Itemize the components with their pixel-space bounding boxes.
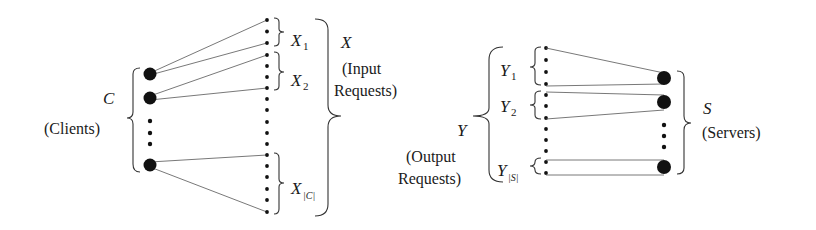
xc-brace (274, 153, 284, 214)
svg-text:|C|: |C| (303, 190, 315, 201)
ys-brace (530, 158, 541, 174)
svg-text:1: 1 (511, 70, 517, 82)
servers-symbol: S (703, 99, 712, 118)
svg-text:1: 1 (303, 40, 309, 52)
servers-brace (677, 71, 691, 174)
y2-brace (530, 91, 541, 119)
svg-text:X: X (290, 31, 302, 50)
x2-label: X 2 (290, 71, 309, 92)
x1-label: X 1 (290, 31, 309, 52)
y1-brace (530, 47, 541, 85)
input-requests-label-line1: (Input (342, 60, 382, 78)
server-node (657, 95, 671, 109)
right-panel-output-requests-to-servers: Y (Output Requests) Y 1 Y 2 Y |S| (398, 46, 761, 188)
request-server-edges (546, 48, 664, 175)
client-node (144, 92, 157, 105)
client-nodes (144, 68, 157, 172)
ys-label: Y |S| (497, 161, 519, 183)
output-requests-symbol: Y (457, 121, 468, 140)
output-requests-label-line1: (Output (406, 148, 456, 166)
ellipsis-dot (148, 119, 152, 123)
clients-brace (127, 68, 140, 172)
clients-symbol: C (103, 89, 115, 108)
svg-text:Y: Y (500, 97, 511, 116)
left-panel-clients-to-input-requests: C (Clients) X (44, 18, 397, 216)
client-server-request-diagram: C (Clients) X (0, 0, 816, 230)
server-node (657, 71, 671, 85)
y2-label: Y 2 (500, 97, 517, 118)
input-requests-brace (315, 19, 341, 216)
xc-label: X |C| (290, 179, 315, 201)
input-requests-label-line2: Requests) (334, 82, 397, 100)
ellipsis-dot (148, 142, 152, 146)
svg-text:X: X (290, 71, 302, 90)
server-nodes (657, 71, 671, 174)
servers-label: (Servers) (702, 124, 761, 142)
ellipsis-dot (662, 134, 666, 138)
ellipsis-dot (662, 145, 666, 149)
ellipsis-dot (148, 131, 152, 135)
svg-text:2: 2 (511, 106, 517, 118)
x1-brace (274, 18, 284, 46)
output-request-dots (544, 46, 548, 175)
svg-text:X: X (290, 179, 302, 198)
x2-brace (274, 52, 284, 90)
client-request-edges (150, 20, 267, 212)
clients-label: (Clients) (44, 120, 100, 138)
input-request-dots (265, 18, 269, 214)
svg-text:Y: Y (500, 61, 511, 80)
svg-text:|S|: |S| (508, 172, 519, 183)
svg-text:2: 2 (303, 80, 309, 92)
client-node (144, 68, 157, 81)
svg-text:Y: Y (497, 161, 508, 180)
server-node (657, 160, 671, 174)
y1-label: Y 1 (500, 61, 517, 82)
output-requests-label-line2: Requests) (398, 170, 461, 188)
ellipsis-dot (662, 123, 666, 127)
input-requests-symbol: X (340, 33, 352, 52)
client-node (144, 159, 157, 172)
